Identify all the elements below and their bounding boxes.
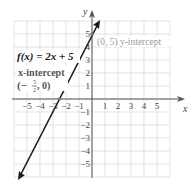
x-tick-label: 3 (129, 101, 134, 111)
x-tick-label: −5 (22, 101, 32, 111)
y-tick-label: 1 (86, 81, 91, 91)
x-intercept-title: x-intercept (18, 67, 65, 78)
x-tick-label: −4 (35, 101, 45, 111)
x-tick-label: 4 (142, 101, 147, 111)
y-tick-label: −4 (80, 146, 90, 156)
x-tick-label: −2 (61, 101, 71, 111)
y-tick-label: −2 (80, 120, 90, 130)
y-tick-label: 2 (86, 68, 91, 78)
x-tick-label: 1 (103, 101, 108, 111)
function-label: f(x) = 2x + 5 (17, 50, 74, 63)
y-intercept-point (90, 32, 94, 36)
y-tick-label: 5 (86, 29, 91, 39)
x-tick-labels: −5−4−3−2−112345 (22, 101, 160, 111)
y-tick-label: 3 (86, 55, 91, 65)
x-intercept-frac-den: 2 (33, 87, 36, 93)
y-axis-label: y (82, 6, 88, 17)
y-tick-label: −5 (80, 159, 90, 169)
x-intercept-point (58, 97, 62, 101)
x-tick-label: 5 (155, 101, 160, 111)
x-intercept-frac-num: 5 (33, 79, 36, 85)
x-intercept-close: , 0) (37, 80, 50, 92)
x-tick-label: 2 (116, 101, 121, 111)
x-axis-label: x (182, 103, 188, 114)
graph-canvas: −5−4−3−2−112345 54321−1−2−3−4−5 x y (0, … (0, 0, 195, 185)
y-tick-label: −3 (80, 133, 90, 143)
x-intercept-open: (− (17, 79, 27, 92)
y-tick-label: −1 (80, 107, 90, 117)
y-intercept-label: (0, 5) y-intercept (97, 37, 161, 48)
